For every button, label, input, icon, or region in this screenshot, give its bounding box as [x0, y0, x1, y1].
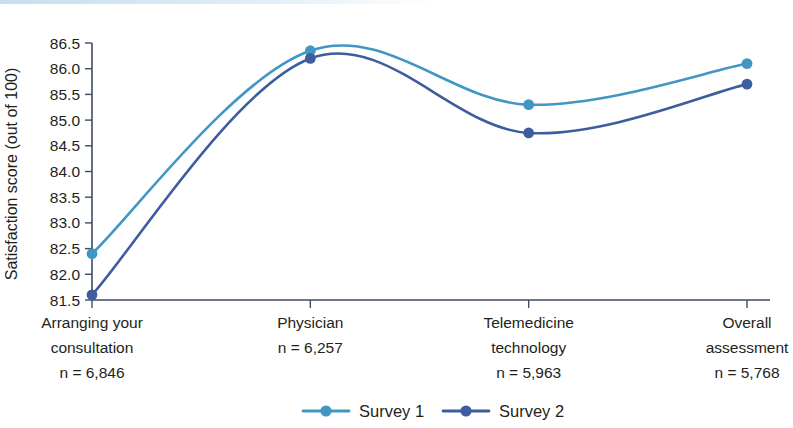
x-category-label-line: n = 6,257 [278, 339, 343, 356]
x-category-label-line: Physician [277, 314, 343, 331]
scan-artifact [0, 0, 440, 4]
y-tick-label: 85.0 [50, 112, 81, 129]
y-axis-title-label: Satisfaction score (out of 100) [3, 68, 20, 281]
data-point-marker [523, 128, 534, 139]
x-category-label-line: n = 5,768 [714, 364, 779, 381]
x-axis-ticks [92, 300, 747, 308]
y-tick-label: 81.5 [50, 292, 80, 309]
x-category-label-line: Telemedicine [483, 314, 573, 331]
x-category-label-line: Arranging your [41, 314, 143, 331]
y-tick-label: 83.0 [50, 214, 81, 231]
y-tick-label: 83.5 [50, 189, 80, 206]
series-lines [92, 45, 747, 294]
y-tick-label: 84.0 [50, 163, 81, 180]
x-category-label-line: n = 5,963 [496, 364, 561, 381]
x-category-label-line: n = 6,846 [59, 364, 124, 381]
y-tick-label: 82.5 [50, 240, 80, 257]
y-tick-label: 84.5 [50, 137, 80, 154]
data-point-marker [87, 289, 98, 300]
y-axis-ticks: 81.582.082.583.083.584.084.585.085.586.0… [50, 35, 92, 309]
data-point-marker [305, 53, 316, 64]
data-point-marker [742, 79, 753, 90]
y-tick-label: 86.0 [50, 60, 81, 77]
x-axis-category-labels: Arranging yourconsultationn = 6,846Physi… [41, 314, 789, 381]
x-category-label-line: assessment [706, 339, 789, 356]
y-tick-label: 85.5 [50, 86, 80, 103]
data-point-marker [742, 58, 753, 69]
legend-label: Survey 1 [359, 402, 424, 420]
legend-label: Survey 2 [499, 402, 564, 420]
data-point-marker [87, 248, 98, 259]
line-chart: Satisfaction score (out of 100) 81.582.0… [0, 0, 793, 428]
y-axis-title: Satisfaction score (out of 100) [3, 68, 20, 281]
data-point-marker [523, 99, 534, 110]
legend-swatch-marker [320, 405, 331, 416]
series-line-1 [92, 45, 747, 253]
chart-legend: Survey 1Survey 2 [303, 402, 564, 420]
y-tick-label: 82.0 [50, 266, 81, 283]
y-tick-label: 86.5 [50, 35, 80, 52]
x-category-label-line: Overall [722, 314, 771, 331]
x-category-label-line: technology [491, 339, 566, 356]
x-category-label-line: consultation [51, 339, 134, 356]
legend-swatch-marker [460, 405, 471, 416]
chart-figure: Satisfaction score (out of 100) 81.582.0… [0, 0, 793, 428]
